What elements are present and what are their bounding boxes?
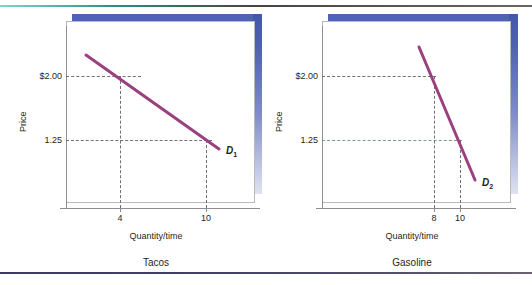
x-axis-title: Quantity/time: [352, 231, 472, 241]
curve-label-d2: D2: [482, 177, 493, 190]
curve-label-d1-subscript: 1: [233, 151, 237, 158]
panel-caption-gasoline: Gasoline: [342, 257, 482, 268]
demand-curve-d2: [266, 14, 532, 234]
x-axis-title: Quantity/time: [96, 231, 216, 241]
x-tick-label-4: 4: [112, 214, 128, 223]
x-tick-label-10: 10: [198, 214, 214, 223]
y-axis-title: Price: [274, 111, 284, 132]
y-tick-label-125: 1.25: [266, 136, 318, 145]
demand-curve-d1: [0, 14, 266, 234]
y-tick-label-125: 1.25: [8, 136, 62, 145]
x-tick-label-10: 10: [452, 214, 468, 223]
y-tick-label-200: $2.00: [266, 72, 318, 81]
top-divider-rule: [0, 5, 532, 7]
panel-caption-tacos: Tacos: [86, 257, 226, 268]
y-axis-title: Price: [18, 111, 28, 132]
curve-label-d1: D1: [226, 145, 237, 158]
bottom-divider-rule: [0, 272, 532, 274]
curve-label-d2-subscript: 2: [489, 183, 493, 190]
y-tick-label-200: $2.00: [8, 72, 62, 81]
x-tick-label-8: 8: [426, 214, 442, 223]
